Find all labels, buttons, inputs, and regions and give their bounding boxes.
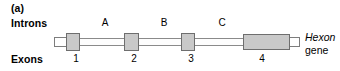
exon-box-2 (124, 33, 139, 51)
gene-track (54, 33, 300, 51)
gene-name-annotation: Hexon gene (305, 31, 335, 57)
exon-number-2: 2 (127, 53, 141, 65)
exon-number-4: 4 (255, 53, 269, 65)
gene-name-italic: Hexon (305, 31, 335, 44)
intron-label-b: B (157, 17, 171, 29)
exon-box-4 (243, 34, 290, 50)
exon-box-1 (66, 33, 80, 51)
exon-number-3: 3 (184, 53, 198, 65)
intron-label-c: C (215, 17, 229, 29)
exons-row-label: Exons (11, 53, 43, 65)
gene-right-end-cap (289, 37, 300, 47)
exon-number-1: 1 (69, 53, 83, 65)
intron-label-a: A (98, 17, 112, 29)
panel-letter: (a) (11, 2, 24, 14)
exon-box-3 (181, 33, 195, 51)
gene-name-plain: gene (305, 44, 335, 57)
hexon-gene-structure-figure: (a) Introns Exons A B C 1 2 3 4 Hexon ge… (0, 0, 340, 71)
introns-row-label: Introns (11, 17, 47, 29)
